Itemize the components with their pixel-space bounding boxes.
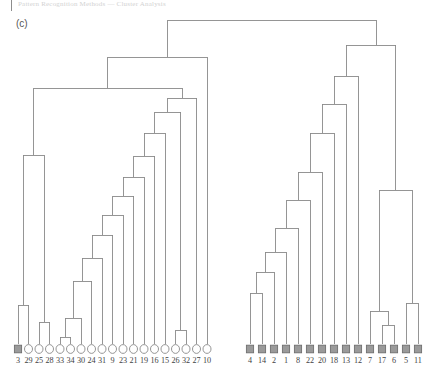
leaf-label: 34 xyxy=(66,356,74,365)
filled-square-marker xyxy=(246,345,253,353)
open-circle-marker xyxy=(35,345,43,354)
open-circle-marker xyxy=(77,345,85,354)
filled-square-marker xyxy=(366,345,373,353)
filled-square-marker xyxy=(306,345,313,353)
leaf-label: 18 xyxy=(330,356,338,365)
leaf-label: 25 xyxy=(35,356,43,365)
leaf-label: 29 xyxy=(24,356,32,365)
leaf-label: 17 xyxy=(378,356,386,365)
open-circle-marker xyxy=(56,345,64,354)
filled-square-marker xyxy=(354,345,361,353)
open-circle-marker xyxy=(182,345,190,354)
filled-square-marker xyxy=(258,345,265,353)
filled-square-marker xyxy=(330,345,337,353)
leaf-label: 7 xyxy=(368,356,372,365)
leaf-label: 14 xyxy=(258,356,266,365)
leaf-label: 28 xyxy=(45,356,53,365)
leaf-label: 33 xyxy=(56,356,64,365)
open-circle-marker xyxy=(25,345,33,354)
leaf-label: 15 xyxy=(161,356,169,365)
leaf-label: 21 xyxy=(129,356,137,365)
open-circle-marker xyxy=(172,345,180,354)
leaf-label: 3 xyxy=(16,356,20,365)
open-circle-marker xyxy=(151,345,159,354)
filled-square-marker xyxy=(294,345,301,353)
leaf-label: 8 xyxy=(296,356,300,365)
filled-square-marker xyxy=(414,345,421,353)
leaf-label: 24 xyxy=(87,356,95,365)
filled-square-marker xyxy=(270,345,277,353)
leaf-label: 4 xyxy=(248,356,252,365)
leaf-label: 31 xyxy=(98,356,106,365)
dendrogram-plot: 3292528333430243192321191615263227104142… xyxy=(0,0,434,384)
leaf-label: 27 xyxy=(192,356,200,365)
leaf-label: 9 xyxy=(110,356,114,365)
dendrogram-links xyxy=(18,20,418,344)
leaf-markers xyxy=(14,345,421,354)
open-circle-marker xyxy=(140,345,148,354)
open-circle-marker xyxy=(161,345,169,354)
leaf-label: 10 xyxy=(203,356,211,365)
filled-square-marker xyxy=(318,345,325,353)
filled-square-marker xyxy=(14,345,21,353)
open-circle-marker xyxy=(46,345,54,354)
leaf-label: 6 xyxy=(392,356,396,365)
leaf-label: 1 xyxy=(284,356,288,365)
leaf-label: 2 xyxy=(272,356,276,365)
filled-square-marker xyxy=(390,345,397,353)
dendrogram-figure: Pattern Recognition Methods — Cluster An… xyxy=(0,0,434,384)
leaf-label: 13 xyxy=(342,356,350,365)
open-circle-marker xyxy=(109,345,117,354)
leaf-label: 12 xyxy=(354,356,362,365)
leaf-label: 23 xyxy=(119,356,127,365)
leaf-labels: 3292528333430243192321191615263227104142… xyxy=(16,356,422,365)
filled-square-marker xyxy=(402,345,409,353)
leaf-label: 16 xyxy=(150,356,158,365)
open-circle-marker xyxy=(98,345,106,354)
open-circle-marker xyxy=(130,345,138,354)
open-circle-marker xyxy=(88,345,96,354)
filled-square-marker xyxy=(342,345,349,353)
filled-square-marker xyxy=(378,345,385,353)
open-circle-marker xyxy=(119,345,127,354)
leaf-label: 20 xyxy=(318,356,326,365)
leaf-label: 30 xyxy=(77,356,85,365)
leaf-label: 26 xyxy=(171,356,179,365)
leaf-label: 11 xyxy=(414,356,422,365)
leaf-label: 22 xyxy=(306,356,314,365)
filled-square-marker xyxy=(282,345,289,353)
open-circle-marker xyxy=(193,345,201,354)
open-circle-marker xyxy=(67,345,75,354)
leaf-label: 19 xyxy=(140,356,148,365)
leaf-label: 32 xyxy=(182,356,190,365)
open-circle-marker xyxy=(203,345,211,354)
leaf-label: 5 xyxy=(404,356,408,365)
